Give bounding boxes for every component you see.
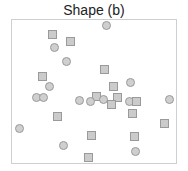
square-marker (107, 100, 116, 109)
square-marker (87, 131, 96, 140)
square-marker (38, 72, 47, 81)
circle-marker (62, 57, 71, 66)
square-marker (132, 97, 141, 106)
figure-title: Shape (b) (0, 2, 188, 18)
circle-marker (50, 43, 59, 52)
square-marker (130, 132, 139, 141)
square-marker (128, 109, 137, 118)
circle-marker (15, 124, 24, 133)
square-marker (53, 112, 62, 121)
square-marker (109, 82, 118, 91)
circle-marker (59, 141, 68, 150)
square-marker (160, 119, 169, 128)
square-marker (66, 37, 75, 46)
square-marker (48, 30, 57, 39)
circle-marker (45, 82, 54, 91)
circle-marker (131, 147, 140, 156)
circle-marker (39, 93, 48, 102)
circle-marker (86, 97, 95, 106)
circle-marker (165, 95, 174, 104)
square-marker (100, 65, 109, 74)
circle-marker (126, 78, 135, 87)
square-marker (84, 153, 93, 162)
circle-marker (75, 96, 84, 105)
circle-marker (102, 21, 111, 30)
